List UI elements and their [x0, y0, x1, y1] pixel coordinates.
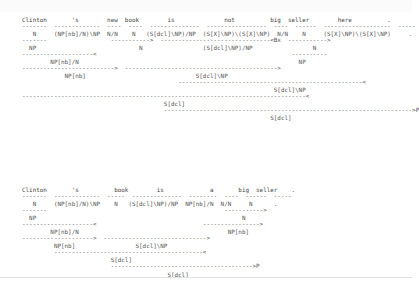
combinator-rule-line: ------- ------------- ----- ------------… — [22, 192, 292, 200]
combinator-rule-line: ----------------------------------------… — [22, 262, 260, 270]
combinator-rule-line: ------- -----------> -------------------… — [22, 36, 331, 44]
divider-line — [0, 277, 412, 278]
combinator-rule-line: --------------------> ------------------… — [22, 234, 210, 242]
combinator-rule-line: ----------------------------------------… — [22, 92, 309, 100]
combinator-rule-line: ------- -----------> — [22, 206, 267, 214]
combinator-rule-line: ------- ------------- ---- ---- --------… — [22, 22, 416, 30]
combinator-rule-line: --------------------------> ------------… — [22, 64, 281, 72]
category-line: S[dcl] — [22, 114, 292, 122]
combinator-rule-line: --------------------< ---------- — [22, 50, 327, 58]
combinator-rule-line: ----------------------------------------… — [22, 248, 206, 256]
combinator-rule-line: ----------------------------------------… — [22, 106, 419, 114]
combinator-rule-line: ----------------------------------------… — [22, 78, 366, 86]
combinator-rule-line: --------------------< ----------------> — [22, 220, 263, 228]
top-band — [0, 0, 412, 12]
